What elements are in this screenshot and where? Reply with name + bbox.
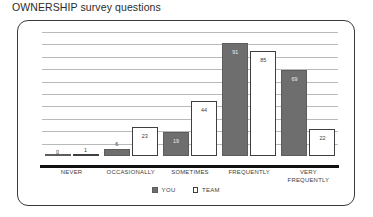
bar-wrap: 23 [132, 32, 158, 156]
axis-baseline [40, 165, 339, 168]
legend-label: TEAM [202, 187, 220, 193]
bar-value-label: 6 [115, 141, 118, 147]
bar-you[interactable] [104, 149, 130, 156]
bar-group: 623 [101, 32, 160, 156]
bar-value-label: 23 [142, 133, 148, 139]
x-axis-label-1: OCCASIONALLY [101, 169, 160, 184]
bar-you[interactable] [281, 70, 307, 156]
chart-legend: YOUTEAM [18, 187, 354, 193]
bar-group: 6922 [279, 32, 338, 156]
bar-wrap: 91 [222, 32, 248, 156]
bar-wrap: 19 [163, 32, 189, 156]
bar-value-label: 44 [201, 107, 207, 113]
page-title: OWNERSHIP survey questions [12, 1, 161, 13]
bar-wrap: 44 [191, 32, 217, 156]
legend-item-team[interactable]: TEAM [193, 187, 220, 193]
bar-value-label: 85 [260, 57, 266, 63]
legend-item-you[interactable]: YOU [152, 187, 175, 193]
bar-value-label: 91 [232, 49, 238, 55]
x-axis-label-0: NEVER [42, 169, 101, 184]
x-axis-label-3: FREQUENTLY [220, 169, 279, 184]
bar-team[interactable] [309, 129, 335, 156]
bar-wrap: 0 [45, 32, 71, 156]
bars-layer: 01623194491856922 [42, 32, 338, 156]
bar-team[interactable] [73, 154, 99, 156]
bar-group: 1944 [160, 32, 219, 156]
legend-label: YOU [162, 187, 176, 193]
bar-you[interactable] [222, 43, 248, 156]
bar-wrap: 69 [281, 32, 307, 156]
filled-square-icon [152, 187, 158, 193]
bar-wrap: 85 [250, 32, 276, 156]
bar-team[interactable] [132, 127, 158, 156]
bar-value-label: 1 [84, 147, 87, 153]
chart-card: 01623194491856922 NEVEROCCASIONALLYSOMET… [17, 20, 355, 206]
x-axis-label-2: SOMETIMES [160, 169, 219, 184]
bar-value-label: 19 [173, 138, 179, 144]
bar-value-label: 22 [319, 135, 325, 141]
x-axis-label-4: VERY FREQUENTLY [279, 169, 338, 184]
bar-wrap: 1 [73, 32, 99, 156]
bar-value-label: 69 [291, 76, 297, 82]
bar-team[interactable] [250, 51, 276, 156]
bar-group: 01 [42, 32, 101, 156]
x-axis-labels: NEVEROCCASIONALLYSOMETIMESFREQUENTLYVERY… [42, 169, 338, 184]
bar-wrap: 6 [104, 32, 130, 156]
plot-area: 01623194491856922 [42, 32, 338, 156]
bar-group: 9185 [220, 32, 279, 156]
hollow-square-icon [193, 187, 199, 193]
bar-wrap: 22 [309, 32, 335, 156]
bar-value-label: 0 [56, 149, 59, 155]
